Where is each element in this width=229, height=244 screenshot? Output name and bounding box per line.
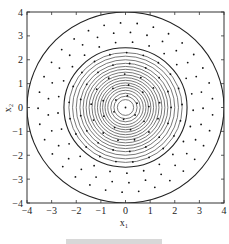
data-point — [193, 54, 195, 56]
x-tick-label: 3 — [197, 205, 202, 216]
data-point — [123, 118, 125, 120]
data-point — [146, 34, 148, 36]
data-point — [148, 131, 150, 133]
data-point — [90, 103, 92, 105]
x-tick-label: −3 — [46, 205, 57, 216]
data-point — [160, 173, 162, 175]
y-tick-label: 2 — [18, 54, 23, 65]
data-point — [117, 139, 119, 141]
data-point — [128, 182, 130, 184]
data-point — [103, 115, 105, 117]
data-point — [47, 114, 49, 116]
data-point — [86, 83, 88, 85]
data-point — [95, 176, 97, 178]
data-point — [162, 41, 164, 43]
data-point — [180, 120, 182, 122]
data-point — [142, 54, 144, 56]
data-point — [58, 145, 60, 147]
data-point — [59, 67, 61, 69]
data-point — [130, 129, 132, 131]
data-point — [129, 63, 131, 65]
data-point — [212, 98, 214, 100]
plot-area — [27, 12, 224, 203]
data-point — [170, 73, 172, 75]
data-point — [183, 141, 185, 143]
data-point — [109, 171, 111, 173]
data-point — [115, 161, 117, 163]
y-axis-label: x₂ — [2, 104, 13, 113]
data-point — [194, 158, 196, 160]
data-point — [88, 30, 90, 32]
data-point — [208, 82, 210, 84]
data-point — [102, 132, 104, 134]
y-tick-label: 1 — [18, 78, 23, 89]
data-point — [39, 123, 41, 125]
data-point — [132, 161, 134, 163]
data-point — [57, 112, 59, 114]
data-point — [168, 33, 170, 35]
x-tick-label: 4 — [222, 205, 227, 216]
data-point — [152, 26, 154, 28]
data-point — [172, 154, 174, 156]
data-point — [80, 99, 82, 101]
data-point — [103, 24, 105, 26]
data-point — [136, 102, 138, 104]
data-point — [132, 41, 134, 43]
data-point — [115, 99, 117, 101]
data-point — [51, 153, 53, 155]
data-point — [69, 54, 71, 56]
data-point — [126, 95, 128, 97]
data-point — [124, 73, 126, 75]
data-point — [63, 80, 65, 82]
data-point — [80, 168, 82, 170]
y-tick-label: −1 — [12, 126, 23, 137]
data-point — [96, 88, 98, 90]
data-point — [121, 191, 123, 193]
data-point — [37, 107, 39, 109]
data-point — [94, 61, 96, 63]
x-tick-labels: −4−3−2−101234 — [22, 205, 227, 216]
data-point — [157, 62, 159, 64]
x-tick-label: −4 — [22, 205, 33, 216]
data-point — [58, 96, 60, 98]
data-point — [202, 67, 204, 69]
data-point — [158, 136, 160, 138]
data-point — [51, 130, 53, 132]
data-point — [113, 111, 115, 113]
data-point — [159, 102, 161, 104]
data-point — [176, 64, 178, 66]
data-point — [80, 115, 82, 117]
data-point — [174, 164, 176, 166]
data-point — [189, 126, 191, 128]
data-point — [138, 190, 140, 192]
data-point — [203, 145, 205, 147]
data-point — [81, 72, 83, 74]
data-point — [97, 71, 99, 73]
data-point — [98, 46, 100, 48]
data-point — [182, 170, 184, 172]
data-point — [169, 180, 171, 182]
data-point — [61, 49, 63, 51]
data-point — [111, 181, 113, 183]
data-point — [187, 62, 189, 64]
data-point — [201, 91, 203, 93]
data-point — [99, 156, 101, 158]
data-point — [68, 158, 70, 160]
data-point — [102, 100, 104, 102]
data-point — [125, 107, 127, 109]
data-point — [162, 148, 164, 150]
data-point — [39, 91, 41, 93]
data-point — [68, 101, 70, 103]
data-point — [192, 109, 194, 111]
y-tick-label: 0 — [18, 102, 23, 113]
data-point — [75, 176, 77, 178]
data-point — [86, 130, 88, 132]
data-point — [51, 61, 53, 63]
x-tick-label: −1 — [96, 205, 107, 216]
data-point — [113, 32, 115, 34]
data-point — [108, 77, 110, 79]
data-point — [105, 189, 107, 191]
data-point — [142, 91, 144, 93]
data-point — [128, 84, 130, 86]
data-point — [62, 166, 64, 168]
